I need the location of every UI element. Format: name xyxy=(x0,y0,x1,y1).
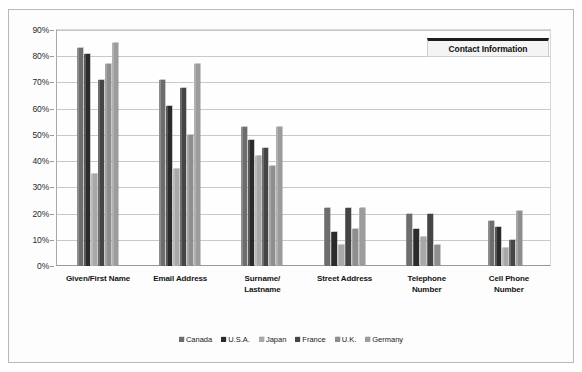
bar-japan[interactable] xyxy=(420,237,426,266)
y-axis-tick-mark xyxy=(50,82,54,83)
x-axis-label: Email Address xyxy=(139,274,221,285)
legend-item-u-s-a[interactable]: U.S.A. xyxy=(221,335,250,344)
bar-france[interactable] xyxy=(345,208,351,266)
bar-germany[interactable] xyxy=(359,208,365,266)
legend-swatch-icon xyxy=(259,337,264,342)
bar-u-s-a[interactable] xyxy=(495,227,501,266)
y-axis-tick-mark xyxy=(50,214,54,215)
bar-u-s-a[interactable] xyxy=(331,232,337,266)
bar-group xyxy=(159,30,201,266)
bar-u-s-a[interactable] xyxy=(166,106,172,266)
x-axis-label: Street Address xyxy=(304,274,386,285)
bar-france[interactable] xyxy=(98,80,104,266)
bar-france[interactable] xyxy=(180,88,186,266)
y-axis-tick-mark xyxy=(50,109,54,110)
legend-label: U.K. xyxy=(342,335,357,344)
legend-item-u-k[interactable]: U.K. xyxy=(335,335,357,344)
bar-france[interactable] xyxy=(427,214,433,266)
legend-label: U.S.A. xyxy=(228,335,250,344)
bar-u-k[interactable] xyxy=(187,135,193,266)
legend-label: Canada xyxy=(186,335,212,344)
x-axis-label: TelephoneNumber xyxy=(386,274,468,295)
page-title: Contact Information xyxy=(449,44,528,54)
legend-swatch-icon xyxy=(221,337,226,342)
legend-item-japan[interactable]: Japan xyxy=(259,335,286,344)
y-axis-tick-mark xyxy=(50,56,54,57)
bar-japan[interactable] xyxy=(338,245,344,266)
bar-u-k[interactable] xyxy=(516,211,522,266)
x-axis-label: Given/First Name xyxy=(57,274,139,285)
y-axis-tick-label: 90% xyxy=(33,25,49,35)
bar-germany[interactable] xyxy=(194,64,200,266)
legend-item-france[interactable]: France xyxy=(295,335,325,344)
bar-canada[interactable] xyxy=(406,214,412,266)
y-axis-tick-label: 40% xyxy=(33,156,49,166)
x-axis-label: Surname/Lastname xyxy=(221,274,303,295)
bar-germany[interactable] xyxy=(276,127,282,266)
bar-u-k[interactable] xyxy=(105,64,111,266)
bar-group xyxy=(406,30,448,266)
bar-japan[interactable] xyxy=(91,174,97,266)
bar-group xyxy=(241,30,283,266)
y-axis-tick-mark xyxy=(50,187,54,188)
y-axis-tick-label: 60% xyxy=(33,104,49,114)
y-axis-tick-mark xyxy=(50,240,54,241)
bar-group xyxy=(324,30,366,266)
bar-canada[interactable] xyxy=(488,221,494,266)
bar-canada[interactable] xyxy=(241,127,247,266)
bar-canada[interactable] xyxy=(159,80,165,266)
legend-swatch-icon xyxy=(295,337,300,342)
legend-swatch-icon xyxy=(365,337,370,342)
bar-france[interactable] xyxy=(262,148,268,266)
y-axis-tick-label: 30% xyxy=(33,182,49,192)
legend-swatch-icon xyxy=(179,337,184,342)
legend-label: Germany xyxy=(372,335,403,344)
legend-item-canada[interactable]: Canada xyxy=(179,335,212,344)
bar-japan[interactable] xyxy=(255,156,261,266)
bar-u-s-a[interactable] xyxy=(248,140,254,266)
legend-label: France xyxy=(302,335,325,344)
bar-group xyxy=(488,30,530,266)
bars-layer xyxy=(57,30,550,266)
y-axis-tick-label: 80% xyxy=(33,51,49,61)
bar-japan[interactable] xyxy=(173,169,179,266)
bar-canada[interactable] xyxy=(324,208,330,266)
y-axis-tick-label: 0% xyxy=(37,261,49,271)
bar-u-s-a[interactable] xyxy=(84,54,90,266)
y-axis-tick-mark xyxy=(50,266,54,267)
bar-group xyxy=(77,30,119,266)
bar-u-k[interactable] xyxy=(269,166,275,266)
bar-france[interactable] xyxy=(509,240,515,266)
bar-u-s-a[interactable] xyxy=(413,229,419,266)
y-axis-tick-label: 20% xyxy=(33,209,49,219)
chart-title-callout: Contact Information xyxy=(427,38,549,57)
bar-japan[interactable] xyxy=(502,248,508,266)
bar-u-k[interactable] xyxy=(434,245,440,266)
legend-swatch-icon xyxy=(335,337,340,342)
bar-canada[interactable] xyxy=(77,48,83,266)
y-axis-tick-mark xyxy=(50,161,54,162)
y-axis-tick-mark xyxy=(50,30,54,31)
bar-germany[interactable] xyxy=(112,43,118,266)
y-axis-tick-label: 10% xyxy=(33,235,49,245)
y-axis-tick-label: 70% xyxy=(33,77,49,87)
chart-legend: CanadaU.S.A.JapanFranceU.K.Germany xyxy=(9,335,573,344)
bar-u-k[interactable] xyxy=(352,229,358,266)
y-axis-tick-label: 50% xyxy=(33,130,49,140)
y-axis: 90%80%70%60%50%40%30%20%10%0% xyxy=(9,29,54,266)
x-axis-label: Cell PhoneNumber xyxy=(468,274,550,295)
x-axis-labels: Given/First NameEmail AddressSurname/Las… xyxy=(57,274,550,316)
y-axis-tick-mark xyxy=(50,135,54,136)
legend-item-germany[interactable]: Germany xyxy=(365,335,403,344)
legend-label: Japan xyxy=(266,335,286,344)
chart-frame: 90%80%70%60%50%40%30%20%10%0% Given/Firs… xyxy=(8,9,574,363)
